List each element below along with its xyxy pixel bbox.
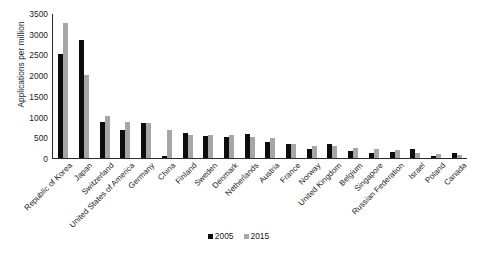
bar-2015 <box>105 116 110 158</box>
bar-group <box>301 14 322 158</box>
bar-group <box>53 14 74 158</box>
bar-group <box>219 14 240 158</box>
bar-group <box>94 14 115 158</box>
bar-group <box>239 14 260 158</box>
y-tick-label: 2500 <box>29 50 48 60</box>
bar-2015 <box>457 155 462 158</box>
bar-2015 <box>208 135 213 158</box>
y-tick-label: 1500 <box>29 92 48 102</box>
bar-group <box>115 14 136 158</box>
bar-2015 <box>250 137 255 158</box>
bar-2015 <box>125 122 130 158</box>
bar-group <box>446 14 467 158</box>
y-tick-label: 0 <box>43 154 48 164</box>
bar-group <box>157 14 178 158</box>
bar-2015 <box>353 148 358 158</box>
legend-label: 2005 <box>215 231 234 241</box>
bar-2015 <box>229 135 234 158</box>
legend-label: 2015 <box>251 231 270 241</box>
bar-group <box>384 14 405 158</box>
bar-group <box>405 14 426 158</box>
y-axis-title: Applications per million <box>17 0 26 140</box>
bar-2015 <box>63 23 68 158</box>
x-tick-label: Republic of Korea <box>22 161 73 212</box>
bar-group <box>426 14 447 158</box>
chart-legend: 20052015 <box>0 231 477 241</box>
bar-chart-figure: Applications per million 050010001500200… <box>0 0 477 259</box>
bar-2015 <box>146 123 151 158</box>
bar-2015 <box>270 138 275 158</box>
bar-group <box>322 14 343 158</box>
bar-2015 <box>374 149 379 158</box>
plot-area: 0500100015002000250030003500 <box>52 14 467 159</box>
bar-group <box>343 14 364 158</box>
bar-group <box>281 14 302 158</box>
y-tick-label: 2000 <box>29 71 48 81</box>
legend-item[interactable]: 2005 <box>208 231 234 241</box>
bar-2015 <box>395 150 400 158</box>
bars-layer <box>53 14 467 158</box>
bar-group <box>177 14 198 158</box>
bar-2015 <box>188 135 193 158</box>
bar-group <box>260 14 281 158</box>
legend-swatch-icon <box>244 234 249 239</box>
bar-group <box>364 14 385 158</box>
x-tick-label: Austria <box>257 161 281 185</box>
legend-item[interactable]: 2015 <box>244 231 270 241</box>
bar-2015 <box>84 75 89 158</box>
x-axis-line <box>52 158 467 159</box>
y-tick-label: 500 <box>34 133 48 143</box>
bar-2015 <box>415 153 420 158</box>
x-axis-labels: Republic of KoreaJapanSwitzerlandUnited … <box>53 161 468 223</box>
y-tick-label: 3000 <box>29 30 48 40</box>
bar-2015 <box>436 154 441 158</box>
bar-group <box>136 14 157 158</box>
bar-2015 <box>332 146 337 158</box>
bar-2015 <box>291 144 296 158</box>
bar-group <box>198 14 219 158</box>
y-tick-label: 1000 <box>29 113 48 123</box>
y-tick-label: 3500 <box>29 9 48 19</box>
bar-2015 <box>167 130 172 158</box>
legend-swatch-icon <box>208 234 213 239</box>
bar-2015 <box>312 146 317 158</box>
bar-group <box>74 14 95 158</box>
